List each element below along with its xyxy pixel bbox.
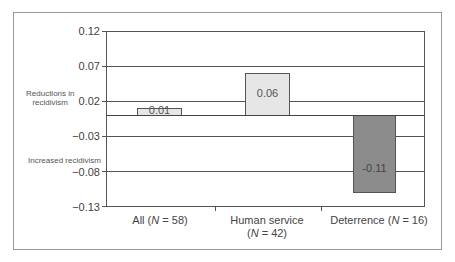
ytick bbox=[102, 31, 106, 32]
ytick-label: 0.12 bbox=[79, 25, 100, 37]
zero-baseline bbox=[106, 115, 425, 116]
ytick-label: −0.13 bbox=[72, 201, 100, 213]
xlabel-text: = 16) bbox=[399, 214, 427, 226]
bar-deterrence: -0.11 bbox=[353, 115, 396, 193]
xlabel-line2: (N = 42) bbox=[212, 227, 322, 240]
ytick-label: 0.02 bbox=[79, 95, 100, 107]
annotation-line: recidivism bbox=[26, 98, 74, 107]
xlabel-text: = 58) bbox=[159, 214, 187, 226]
ytick-label: −0.08 bbox=[72, 166, 100, 178]
xlabel-all: All (N = 58) bbox=[105, 214, 215, 227]
xlabel-text: All ( bbox=[132, 214, 151, 226]
xlabel-deterrence: Deterrence (N = 16) bbox=[317, 214, 441, 227]
annotation-increased: Increased recidivism bbox=[28, 156, 101, 165]
bar-human-service: 0.06 bbox=[245, 73, 290, 116]
bar-value-label: 0.06 bbox=[246, 87, 289, 99]
xtick bbox=[215, 207, 216, 211]
ytick bbox=[102, 101, 106, 102]
xlabel-text: Human service bbox=[212, 214, 322, 227]
bar-value-label: -0.11 bbox=[354, 162, 395, 174]
xtick bbox=[321, 207, 322, 211]
ytick bbox=[102, 136, 106, 137]
annotation-line: Reductions in bbox=[26, 89, 74, 98]
ytick-label: 0.07 bbox=[79, 60, 100, 72]
xlabel-n: N bbox=[251, 227, 259, 239]
ytick bbox=[102, 66, 106, 67]
xlabel-text: Deterrence ( bbox=[330, 214, 391, 226]
ytick-label: −0.03 bbox=[72, 130, 100, 142]
gridline-0.07 bbox=[106, 66, 425, 67]
ytick bbox=[102, 171, 106, 172]
annotation-reductions: Reductions in recidivism bbox=[26, 89, 74, 107]
ytick bbox=[102, 206, 106, 207]
xlabel-human-service: Human service (N = 42) bbox=[212, 214, 322, 240]
xlabel-text: = 42) bbox=[259, 227, 287, 239]
